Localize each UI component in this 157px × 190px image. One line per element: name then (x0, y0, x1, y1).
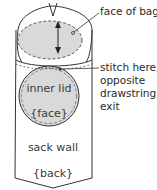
label-inner-lid: inner lid (27, 82, 72, 95)
label-sack-wall: sack wall (28, 141, 78, 154)
rim-bottom-edge (16, 60, 92, 66)
label-opposite: opposite (100, 74, 145, 86)
stitch-leader-line (62, 68, 99, 69)
face-of-bag-oval (18, 21, 82, 59)
label-back-tag: {back} (33, 167, 73, 180)
drawstring-bag-diagram: face of bag stitch here, opposite drawst… (0, 0, 157, 190)
top-notch (49, 3, 57, 16)
label-face-tag: {face} (30, 107, 67, 120)
label-stitch-here: stitch here, (100, 61, 157, 73)
stitch-point-dot (59, 68, 62, 71)
label-drawstring: drawstring (100, 87, 156, 99)
label-face-of-bag: face of bag (100, 5, 157, 17)
label-exit: exit (100, 100, 120, 112)
face-leader-line (74, 13, 99, 32)
